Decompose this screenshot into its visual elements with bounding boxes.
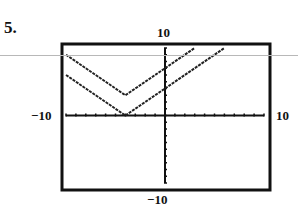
graph-window [0, 0, 298, 223]
axes [66, 48, 264, 183]
divider-line [0, 55, 298, 56]
series-1 [66, 48, 224, 116]
curves [66, 48, 224, 116]
